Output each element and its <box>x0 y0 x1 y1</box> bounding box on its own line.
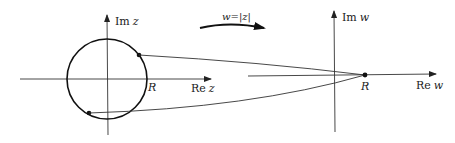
arrow-icon <box>200 25 264 29</box>
im-w-axis <box>334 11 335 132</box>
re-z-label: Rez <box>191 82 215 95</box>
re-w-label: Rew <box>416 79 444 92</box>
mapping-diagram: Imz Rez R w=|z| Imw Rew R <box>0 0 455 143</box>
z-plane: Imz Rez R <box>20 15 215 135</box>
im-z-axis <box>107 15 108 135</box>
im-z-label: Imz <box>115 15 139 28</box>
point-r-label: R <box>360 80 369 93</box>
mapping-lines <box>89 55 365 113</box>
upper-mapping-line <box>139 55 365 75</box>
mapping-label: w=|z| <box>222 11 251 23</box>
radius-r-label: R <box>147 81 156 94</box>
re-w-axis <box>248 74 436 76</box>
w-plane: Imw Rew R <box>248 11 444 132</box>
point-r <box>363 73 368 78</box>
mapping-arrow: w=|z| <box>200 11 264 28</box>
im-w-label: Imw <box>342 11 370 24</box>
lower-mapping-line <box>89 75 365 113</box>
